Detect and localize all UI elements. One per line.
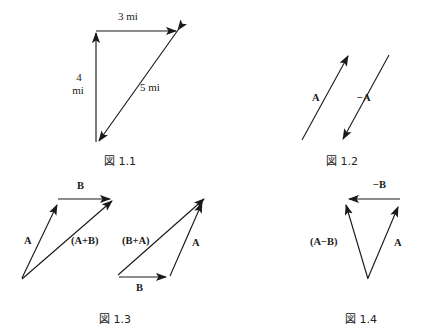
figure-1-2: A −A 図 1.2 bbox=[290, 0, 421, 175]
figure-1-2-graphic bbox=[290, 0, 421, 175]
vector-diagram-sheet: 3 mi 4 mi 5 mi 図 1.1 A −A 図 1.2 bbox=[0, 0, 421, 333]
label-b-top: B bbox=[77, 180, 84, 192]
figure-1-4: −B (A−B) A 図 1.4 bbox=[310, 175, 421, 333]
label-4-mi-line2: mi bbox=[69, 85, 87, 97]
label-minus-b: −B bbox=[373, 179, 386, 191]
figure-1-1: 3 mi 4 mi 5 mi 図 1.1 bbox=[0, 0, 215, 175]
figure-1-2-caption: 図 1.2 bbox=[326, 152, 358, 168]
label-4-mi-line1: 4 bbox=[72, 72, 86, 84]
label-a-right: A bbox=[192, 237, 200, 249]
label-minus-a: −A bbox=[357, 92, 371, 104]
label-a: A bbox=[312, 92, 320, 104]
vector-5-mi-line bbox=[99, 30, 178, 141]
label-a-minus-b: (A−B) bbox=[310, 236, 338, 248]
label-a-left: A bbox=[24, 235, 32, 247]
label-b-plus-a: (B+A) bbox=[122, 235, 150, 247]
figure-1-3: B A (A+B) (B+A) A B 図 1.3 bbox=[0, 175, 250, 333]
label-b-bottom: B bbox=[136, 282, 143, 294]
figure-1-1-caption: 図 1.1 bbox=[104, 152, 136, 168]
label-a-plus-b: (A+B) bbox=[71, 235, 99, 247]
vector-a-line bbox=[302, 56, 348, 140]
vector-a-minus-b-line bbox=[346, 205, 368, 279]
label-5-mi: 5 mi bbox=[140, 82, 160, 94]
figure-1-1-graphic bbox=[0, 0, 215, 175]
figure-1-4-caption: 図 1.4 bbox=[345, 310, 377, 326]
label-a: A bbox=[394, 237, 402, 249]
label-3-mi: 3 mi bbox=[118, 11, 138, 23]
figure-1-3-caption: 図 1.3 bbox=[99, 310, 131, 326]
